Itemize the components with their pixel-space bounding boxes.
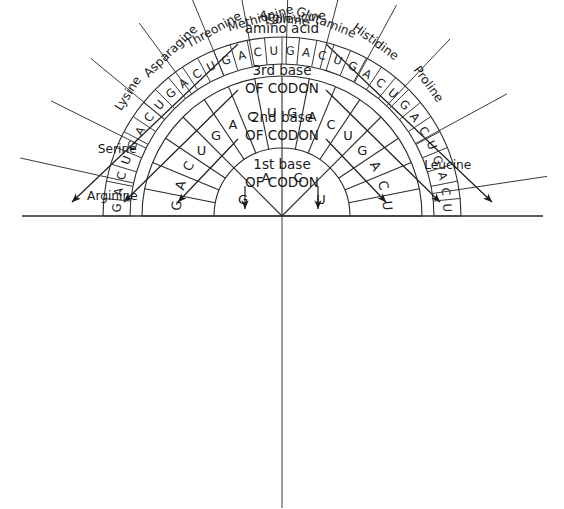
ring3-letter-18: C — [317, 48, 328, 64]
header-2-line1: 2nd base — [251, 109, 313, 125]
amino-acid-label-histidine-9: Histidine — [350, 20, 401, 63]
ring2-letter-3: U — [197, 143, 207, 158]
ring3-letter-15: U — [269, 43, 278, 57]
header-3-line1: 1st base — [253, 156, 310, 172]
ring2-letter-5: A — [229, 117, 238, 132]
ring2-divider-3 — [166, 138, 226, 178]
arrow-2nd-base-right — [326, 139, 386, 202]
header-2-line2: OF CODON — [245, 127, 319, 143]
ring2-divider-13 — [339, 138, 399, 178]
ring3-letter-13: A — [236, 48, 247, 64]
header-3-line2: OF CODON — [245, 174, 319, 190]
ring2-divider-4 — [183, 117, 234, 168]
ring2-letter-14: C — [375, 179, 392, 192]
ring2-divider-12 — [330, 117, 381, 168]
ring3-letter-14: C — [253, 45, 263, 60]
ring3-divider-15 — [264, 38, 267, 65]
ring2-letter-12: G — [357, 143, 367, 158]
amino-acid-label-leucine-11: Leucine — [424, 158, 471, 172]
ring2-letter-1: A — [172, 179, 189, 192]
ring2-letter-0: G — [169, 200, 185, 211]
ring3-divider-18 — [312, 40, 317, 66]
ring3-letter-30: C — [438, 187, 453, 197]
amino-acid-label-arginine-0: Arginine — [87, 189, 138, 203]
ring3-divider-17 — [297, 38, 300, 65]
ring2-letter-10: C — [326, 117, 335, 132]
header-1-line2: OF CODON — [245, 80, 319, 96]
ring2-letter-4: G — [211, 128, 221, 143]
ring3-divider-30 — [431, 181, 457, 186]
amino-acid-label-serine-1: Serine — [98, 142, 137, 156]
ring3-letter-22: C — [373, 75, 388, 91]
ring3-letter-2: C — [114, 170, 130, 181]
ring3-letter-9: A — [176, 75, 191, 91]
ring1-letter-3: U — [316, 192, 326, 207]
header-1-line1: 3rd base — [253, 62, 312, 78]
ring3-letter-5: A — [132, 124, 148, 138]
ring3-letter-12: G — [220, 52, 233, 68]
ring2-letter-11: U — [343, 128, 353, 143]
amino-acid-label-proline-10: Proline — [411, 63, 447, 105]
ring3-letter-0: G — [109, 203, 123, 213]
diagram-canvas: GACUGACUGACUGACUGACUGACUGACUGACUGACUGACU… — [0, 0, 564, 509]
genetic-code-wheel: GACUGACUGACUGACUGACUGACUGACUGACUGACUGACU… — [0, 0, 564, 509]
ring3-letter-16: G — [285, 43, 295, 57]
ring2-letter-15: U — [380, 200, 396, 211]
ring3-letter-20: G — [346, 58, 360, 75]
ring2-letter-2: C — [180, 158, 198, 173]
ring3-letter-19: U — [331, 52, 344, 68]
ring1-letter-0: G — [238, 192, 248, 207]
ring3-letter-11: U — [204, 58, 218, 74]
ring3-letter-10: C — [190, 66, 204, 82]
leader-line-10 — [416, 94, 507, 144]
ring3-letter-17: A — [301, 45, 311, 60]
ring2-letter-13: A — [367, 159, 384, 174]
ring3-letter-31: U — [440, 203, 454, 212]
